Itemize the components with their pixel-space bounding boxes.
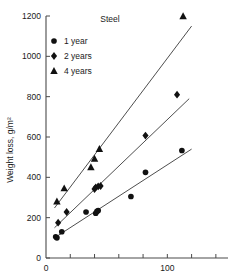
legend-marker-diamond [51, 52, 57, 60]
legend-label: 2 years [64, 51, 92, 61]
data-point [87, 163, 94, 170]
data-point [179, 148, 185, 154]
data-points [53, 12, 187, 240]
y-tick-label: 1000 [22, 51, 41, 61]
data-point [128, 194, 134, 200]
y-tick-label: 800 [27, 92, 41, 102]
x-axis-tick-labels: 0100 [44, 263, 175, 273]
data-point [143, 169, 149, 175]
legend: 1 year2 years4 years [50, 36, 92, 76]
data-point [60, 184, 67, 191]
data-point [96, 145, 103, 152]
chart-container: 020040060080010001200 0100 Weight loss, … [0, 0, 233, 280]
chart-title: Steel [100, 14, 119, 24]
y-tick-label: 0 [36, 253, 41, 263]
y-axis-ticks [46, 16, 50, 258]
legend-label: 4 years [64, 66, 92, 76]
data-point [179, 12, 186, 19]
x-tick-label: 0 [44, 263, 49, 273]
x-axis-ticks [70, 254, 216, 258]
y-axis-label: Weight loss, g/m² [5, 117, 15, 183]
y-tick-label: 1200 [22, 11, 41, 21]
data-point [95, 208, 101, 214]
data-point [83, 209, 89, 215]
y-tick-label: 400 [27, 172, 41, 182]
data-point [174, 91, 180, 99]
y-tick-label: 600 [27, 132, 41, 142]
legend-marker-triangle [50, 67, 57, 74]
data-point [54, 235, 60, 241]
x-tick-label: 100 [160, 263, 174, 273]
data-point [64, 208, 70, 216]
data-point [59, 229, 65, 235]
scatter-plot: 020040060080010001200 0100 Weight loss, … [0, 0, 233, 280]
y-axis-tick-labels: 020040060080010001200 [22, 11, 41, 263]
data-point [55, 219, 61, 227]
legend-marker-circle [51, 38, 57, 44]
y-tick-label: 200 [27, 213, 41, 223]
legend-label: 1 year [64, 36, 88, 46]
